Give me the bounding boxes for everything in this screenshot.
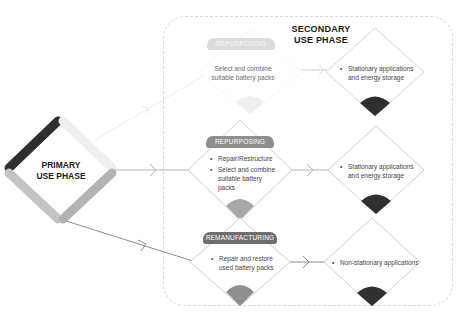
path3-application-text: Non-stationary applications — [332, 258, 422, 269]
primary-title-line1: PRIMARY — [20, 160, 102, 171]
connector-primary-to-path3 — [66, 221, 196, 262]
path3-application-item: Non-stationary applications — [332, 258, 422, 267]
path2-process-item: Repair/Restructure — [210, 154, 280, 163]
path3-process-text: Repair and restore used battery packs — [211, 254, 281, 274]
primary-use-phase-title: PRIMARY USE PHASE — [20, 160, 102, 182]
primary-title-line2: USE PHASE — [20, 171, 102, 182]
path2-process-tag: REPURPOSING — [206, 136, 274, 148]
path2-process-text: Repair/Restructure Select and combine su… — [210, 154, 280, 194]
connector-primary-to-path1 — [95, 75, 205, 140]
path3-process-item: Repair and restore used battery packs — [211, 254, 281, 272]
secondary-use-phase-title: SECONDARY USE PHASE — [276, 24, 366, 46]
path1-application-text: Stationary applications and energy stora… — [340, 64, 414, 84]
path2-process-item: Select and combine suitable battery pack… — [210, 165, 280, 192]
path1-process-tag: REPURPOSING — [207, 38, 275, 50]
path2-application-item: Stationary applications and energy stora… — [340, 162, 414, 180]
path1-process-text: Select and combine suitable battery pack… — [205, 64, 281, 82]
secondary-title-line1: SECONDARY — [276, 24, 366, 35]
secondary-title-line2: USE PHASE — [276, 35, 366, 46]
diagram-canvas: SECONDARY USE PHASE PRIMARY USE PHASE RE… — [0, 0, 464, 321]
path2-application-text: Stationary applications and energy stora… — [340, 162, 414, 182]
path1-application-item: Stationary applications and energy stora… — [340, 64, 414, 82]
path3-process-tag: REMANUFACTURING — [203, 232, 277, 244]
